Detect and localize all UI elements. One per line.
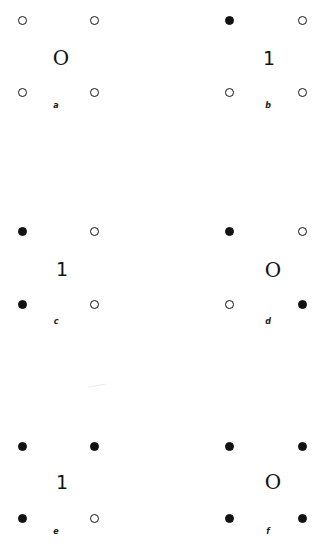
panel-f: O f [163, 430, 326, 554]
node-a-bottom-left [18, 88, 27, 97]
panel-label-f: f [266, 528, 269, 536]
panel-label-d: d [265, 318, 271, 326]
node-b-top-right [298, 16, 307, 25]
node-c-bottom-right [90, 300, 99, 309]
panel-b: 1 b [163, 0, 326, 180]
node-f-top-left [225, 442, 234, 451]
node-e-bottom-left [18, 514, 27, 523]
center-glyph-e: 1 [56, 473, 68, 492]
node-d-bottom-left [225, 300, 234, 309]
node-a-top-right [90, 16, 99, 25]
node-b-bottom-right [298, 88, 307, 97]
panel-label-c: c [54, 318, 59, 326]
node-d-bottom-right [298, 300, 307, 309]
node-e-bottom-right [90, 514, 99, 523]
node-e-top-right [90, 442, 99, 451]
center-glyph-d: O [265, 261, 281, 280]
node-c-top-left [18, 227, 27, 236]
node-f-bottom-left [225, 514, 234, 523]
center-glyph-a: O [53, 49, 69, 68]
node-f-bottom-right [298, 514, 307, 523]
panel-d: O d [163, 215, 326, 395]
panel-e: 1 e [0, 430, 163, 554]
panel-label-b: b [265, 102, 271, 110]
node-f-top-right [298, 442, 307, 451]
node-a-bottom-right [90, 88, 99, 97]
center-glyph-f: O [265, 473, 281, 492]
node-b-top-left [225, 16, 234, 25]
node-d-top-left [225, 227, 234, 236]
panel-a: O a [0, 0, 163, 180]
node-c-bottom-left [18, 300, 27, 309]
panel-c: 1 c [0, 215, 163, 395]
node-e-top-left [18, 442, 27, 451]
node-c-top-right [90, 227, 99, 236]
center-glyph-b: 1 [263, 49, 275, 68]
center-glyph-c: 1 [56, 260, 68, 279]
panel-label-a: a [53, 102, 58, 110]
node-d-top-right [298, 227, 307, 236]
figure-canvas: O a 1 b 1 c O d 1 e [0, 0, 326, 554]
node-b-bottom-left [225, 88, 234, 97]
node-a-top-left [18, 16, 27, 25]
panel-label-e: e [53, 528, 58, 536]
